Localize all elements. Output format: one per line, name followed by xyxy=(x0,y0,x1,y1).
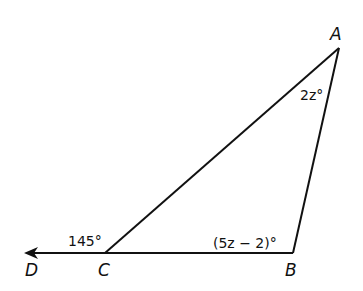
side-ac xyxy=(105,48,339,253)
angle-a-label: 2z° xyxy=(300,87,323,103)
label-d: D xyxy=(25,260,38,280)
label-c: C xyxy=(98,260,110,280)
label-b: B xyxy=(285,260,297,280)
triangle-diagram: A B C D 2z° (5z − 2)° 145° xyxy=(0,0,363,291)
angle-b-label: (5z − 2)° xyxy=(213,235,277,251)
side-ab xyxy=(293,48,339,253)
label-a: A xyxy=(329,24,342,44)
angle-exterior-c-label: 145° xyxy=(68,233,102,249)
